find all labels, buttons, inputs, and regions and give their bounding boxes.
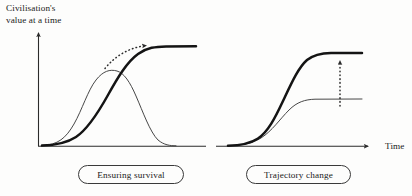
diagram-canvas: Civilisation's value at a time Time Ensu… <box>0 0 412 196</box>
y-axis-label: Civilisation's value at a time <box>6 3 61 26</box>
caption-trajectory-change: Trajectory change <box>246 165 351 184</box>
right-baseline-curve <box>228 99 362 146</box>
trajectory-diagram <box>0 0 412 196</box>
left-collapse-curve <box>42 70 176 146</box>
x-axis-label: Time <box>385 141 404 153</box>
caption-ensuring-survival: Ensuring survival <box>78 165 184 184</box>
left-survival-curve <box>42 46 196 145</box>
